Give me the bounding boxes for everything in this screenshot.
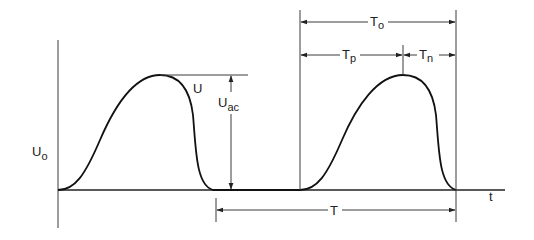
period-label: T <box>330 203 338 218</box>
pulse-diagram: Uo Uac U t T To Tp Tn <box>0 0 534 240</box>
pulse-2-curve <box>300 75 456 190</box>
pulse-1-curve <box>58 75 300 190</box>
curve-label: U <box>193 81 202 96</box>
y-axis-label: Uo <box>32 144 48 162</box>
x-axis-label: t <box>489 189 493 204</box>
